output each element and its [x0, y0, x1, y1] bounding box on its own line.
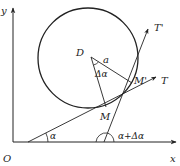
tangent-t-label: T: [161, 75, 169, 86]
center-label: D: [75, 47, 84, 58]
y-axis-label: y: [0, 5, 7, 16]
alpha-label: α: [50, 131, 56, 141]
radius-label: a: [103, 54, 109, 65]
delta-alpha-arc: [94, 62, 99, 65]
delta-alpha-label: Δα: [94, 69, 108, 79]
x-axis-label: x: [170, 153, 176, 164]
tangent-t-prime-label: T': [154, 22, 163, 33]
point-m-prime-label: M': [133, 75, 147, 86]
origin-label: O: [3, 153, 11, 164]
alpha-arc: [46, 133, 48, 142]
point-m-label: M: [99, 111, 111, 122]
curvature-diagram: y x O D a Δα M M' T T' α α+Δα: [0, 0, 180, 166]
alpha-plus-delta-label: α+Δα: [118, 131, 144, 141]
